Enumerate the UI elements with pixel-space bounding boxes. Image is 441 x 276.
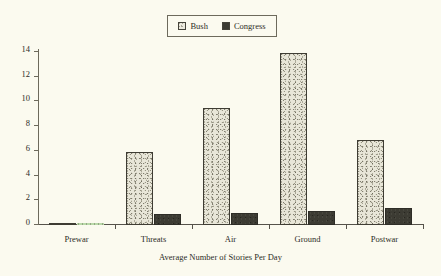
- y-tick-label: 10: [22, 94, 31, 103]
- plot-area: 02468101214 PrewarThreatsAirGroundPostwa…: [38, 52, 423, 225]
- x-tick: [423, 224, 424, 229]
- bar-ground-bush: [280, 53, 307, 225]
- y-tick: 10: [34, 100, 39, 101]
- y-tick-label: 12: [22, 70, 31, 79]
- y-tick-label: 4: [26, 169, 30, 178]
- bar-ground-congress: [308, 211, 335, 225]
- bar-chart: Bush Congress 02468101214 PrewarThreatsA…: [0, 0, 441, 276]
- bar-postwar-bush: [357, 140, 384, 225]
- bar-prewar-congress: [77, 223, 104, 225]
- x-tick: [192, 224, 193, 229]
- category-label-prewar: Prewar: [64, 235, 88, 244]
- y-tick: 14: [34, 51, 39, 52]
- legend-swatch-congress-icon: [222, 22, 230, 30]
- chart-legend: Bush Congress: [167, 15, 277, 37]
- bar-prewar-bush: [49, 223, 76, 225]
- bar-postwar-congress: [385, 208, 412, 225]
- category-label-air: Air: [225, 235, 236, 244]
- bar-threats-congress: [154, 214, 181, 225]
- x-axis-title: Average Number of Stories Per Day: [0, 253, 441, 262]
- category-label-postwar: Postwar: [371, 235, 398, 244]
- legend-item-congress: Congress: [222, 22, 266, 31]
- legend-label-bush: Bush: [190, 22, 207, 31]
- bar-threats-bush: [126, 152, 153, 225]
- y-tick-label: 2: [26, 193, 30, 202]
- legend-swatch-bush-icon: [178, 22, 186, 30]
- category-label-threats: Threats: [141, 235, 167, 244]
- x-tick: [269, 224, 270, 229]
- x-tick: [346, 224, 347, 229]
- y-tick-label: 8: [26, 119, 30, 128]
- y-tick: 6: [34, 150, 39, 151]
- y-tick: 8: [34, 125, 39, 126]
- y-tick: 0: [34, 224, 39, 225]
- legend-item-bush: Bush: [178, 22, 207, 31]
- bar-air-congress: [231, 213, 258, 225]
- y-tick-label: 0: [26, 218, 30, 227]
- x-tick: [115, 224, 116, 229]
- y-tick-label: 14: [22, 45, 31, 54]
- bar-air-bush: [203, 108, 230, 225]
- y-tick: 12: [34, 76, 39, 77]
- y-tick: 2: [34, 199, 39, 200]
- category-label-ground: Ground: [295, 235, 321, 244]
- y-tick-label: 6: [26, 144, 30, 153]
- legend-label-congress: Congress: [234, 22, 266, 31]
- y-tick: 4: [34, 175, 39, 176]
